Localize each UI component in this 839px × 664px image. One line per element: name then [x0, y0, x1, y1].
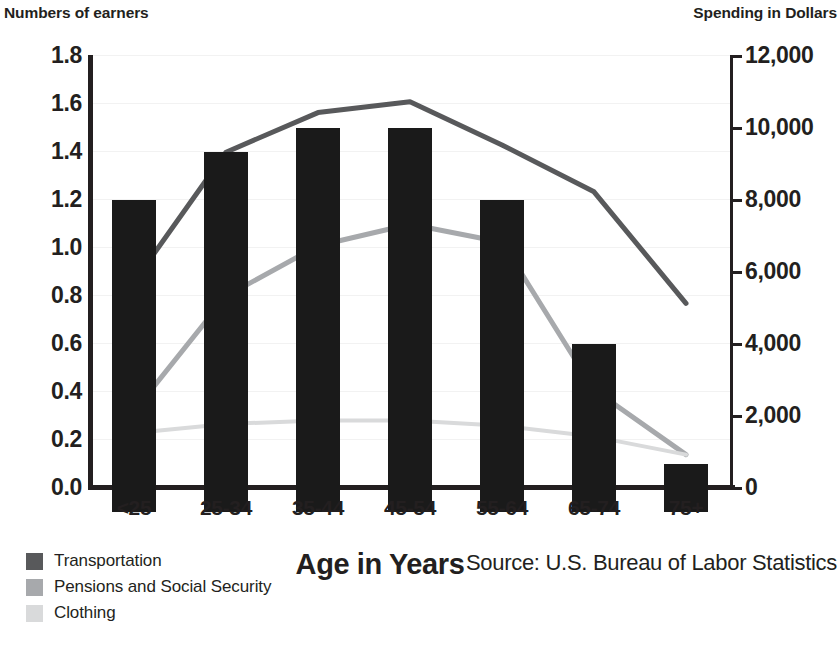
legend-item[interactable]: Pensions and Social Security — [26, 575, 446, 599]
y-axis-right-tickmark — [733, 487, 742, 490]
y-axis-left-tick-label: 0.6 — [24, 332, 82, 355]
y-axis-left-tick-label: 1.8 — [24, 44, 82, 67]
source-note: Source: U.S. Bureau of Labor Statistics — [466, 550, 837, 576]
y-axis-left-tick-label: 0.8 — [24, 284, 82, 307]
bar — [480, 200, 524, 512]
bar — [296, 128, 340, 512]
x-axis-tick-label: 25-34 — [180, 496, 272, 520]
y-axis-right-tick-label: 2,000 — [745, 404, 801, 427]
x-axis-tick-label: 35-44 — [272, 496, 364, 520]
bar — [388, 128, 432, 512]
chart-header: Numbers of earners Spending in Dollars — [0, 0, 839, 30]
y-axis-left-tick-label: 1.2 — [24, 188, 82, 211]
y-axis-right-tick-label: 10,000 — [745, 116, 814, 139]
y-axis-right-tickmark — [733, 343, 742, 346]
legend-item-label: Clothing — [54, 603, 116, 623]
legend-swatch-icon — [26, 605, 43, 622]
x-axis-tick-label: 75+ — [640, 496, 732, 520]
y-axis-right-tick-label: 12,000 — [745, 44, 814, 67]
legend-item[interactable]: Clothing — [26, 601, 446, 625]
y-axis-right-ticks: 12,00010,0008,0006,0004,0002,0000 — [733, 55, 839, 489]
x-axis-tick-label: <25 — [88, 496, 180, 520]
y-axis-right-tick-label: 0 — [745, 476, 758, 499]
bar — [204, 152, 248, 512]
y-axis-right-tickmark — [733, 55, 742, 58]
y-axis-left-tick-label: 1.4 — [24, 140, 82, 163]
chart-area: 1.81.61.41.21.00.80.60.40.20.0 12,00010,… — [0, 30, 839, 500]
legend-swatch-icon — [26, 579, 43, 596]
right-axis-title: Spending in Dollars — [693, 4, 837, 22]
y-axis-right-tick-label: 8,000 — [745, 188, 801, 211]
plot-area — [88, 55, 732, 487]
y-axis-right-tickmark — [733, 127, 742, 130]
y-axis-left-tick-label: 0.0 — [24, 476, 82, 499]
y-axis-right-tickmark — [733, 415, 742, 418]
y-axis-right-tick-label: 4,000 — [745, 332, 801, 355]
legend-item-label: Pensions and Social Security — [54, 577, 271, 597]
legend: TransportationPensions and Social Securi… — [26, 549, 446, 627]
y-axis-left-tick-label: 0.4 — [24, 380, 82, 403]
x-axis-ticks: <2525-3435-4445-5455-6465-7475+ — [88, 496, 735, 530]
y-axis-left-tick-label: 0.2 — [24, 428, 82, 451]
bar — [112, 200, 156, 512]
y-axis-right-tickmark — [733, 271, 742, 274]
legend-swatch-icon — [26, 553, 43, 570]
y-axis-right-tick-label: 6,000 — [745, 260, 801, 283]
bar — [572, 344, 616, 512]
x-axis-tick-label: 55-64 — [456, 496, 548, 520]
y-axis-right-tickmark — [733, 199, 742, 202]
x-axis-tick-label: 45-54 — [364, 496, 456, 520]
x-axis-tick-label: 65-74 — [548, 496, 640, 520]
y-axis-left-tick-label: 1.0 — [24, 236, 82, 259]
y-axis-left-tick-label: 1.6 — [24, 92, 82, 115]
left-axis-title: Numbers of earners — [4, 4, 149, 22]
legend-item[interactable]: Transportation — [26, 549, 446, 573]
legend-item-label: Transportation — [54, 551, 162, 571]
y-axis-left-ticks: 1.81.61.41.21.00.80.60.40.20.0 — [10, 55, 82, 489]
